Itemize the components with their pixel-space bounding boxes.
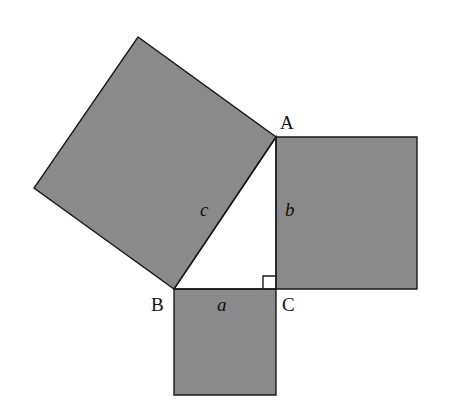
vertex-label-a: A [280,112,294,133]
side-label-b: b [285,199,295,220]
vertex-label-c: C [282,294,295,315]
right-angle-marker [263,276,276,289]
vertex-label-b: B [151,294,164,315]
square-on-side-c [34,37,276,289]
square-on-side-b [276,137,417,289]
pythagorean-diagram: A B C a b c [0,0,449,416]
side-label-c: c [200,199,209,220]
side-label-a: a [217,294,227,315]
